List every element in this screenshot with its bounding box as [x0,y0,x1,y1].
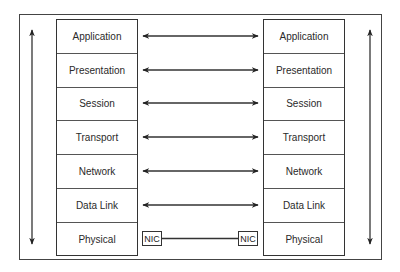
left-layer-transport: Transport [57,121,137,155]
left-layer-session: Session [57,88,137,122]
left-layer-network: Network [57,155,137,189]
right-layer-network: Network [264,155,344,189]
left-layer-application: Application [57,20,137,54]
left-osi-stack: Application Presentation Session Transpo… [56,19,138,256]
right-layer-presentation: Presentation [264,54,344,88]
left-nic-label: NIC [142,231,162,246]
right-layer-transport: Transport [264,121,344,155]
right-layer-data-link: Data Link [264,189,344,223]
right-osi-stack: Application Presentation Session Transpo… [263,19,345,256]
left-layer-data-link: Data Link [57,189,137,223]
right-layer-physical: Physical [264,223,344,257]
right-layer-session: Session [264,88,344,122]
right-nic-label: NIC [238,231,258,246]
left-layer-physical: Physical [57,223,137,257]
right-layer-application: Application [264,20,344,54]
left-layer-presentation: Presentation [57,54,137,88]
